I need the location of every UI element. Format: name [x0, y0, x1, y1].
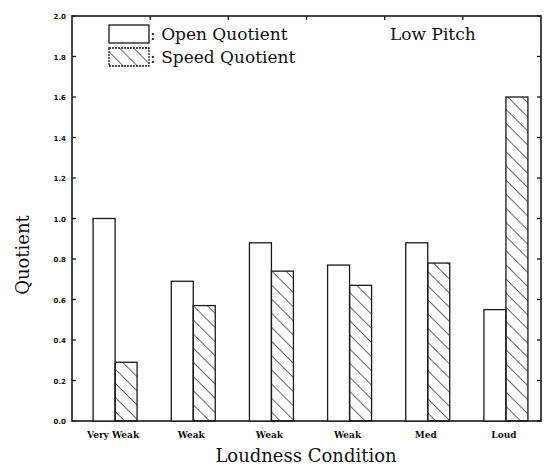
bar-open-quotient [171, 281, 193, 421]
legend-swatch-speed [109, 48, 149, 66]
legend: : Open Quotient : Speed Quotient [109, 24, 295, 67]
bar-open-quotient [328, 265, 350, 421]
x-axis-title: Loudness Condition [215, 445, 397, 466]
bar-speed-quotient [506, 97, 528, 421]
x-axis-labels: Very WeakWeakWeakWeakMedLoud [86, 430, 517, 440]
y-tick-label: 2.0 [54, 13, 67, 21]
x-tick-label: Weak [333, 430, 362, 440]
bar-speed-quotient [350, 285, 372, 421]
x-tick-label: Weak [177, 430, 206, 440]
x-tick-label: Very Weak [86, 430, 140, 440]
annotation-low-pitch: Low Pitch [390, 24, 476, 44]
bar-chart: 0.00.20.40.60.81.01.21.41.61.82.0 Very W… [0, 0, 555, 476]
y-axis-title-wrap: Quotient [2, 215, 42, 295]
y-tick-label: 1.0 [54, 216, 67, 224]
y-tick-label: 0.2 [54, 378, 67, 386]
bar-open-quotient [249, 243, 271, 421]
y-tick-label: 1.8 [54, 54, 67, 62]
plot-border [72, 16, 541, 421]
bar-speed-quotient [428, 263, 450, 421]
y-tick-label: 1.4 [54, 135, 67, 143]
x-tick-label: Med [415, 430, 438, 440]
bar-speed-quotient [193, 306, 215, 421]
y-tick-label: 0.4 [54, 337, 67, 345]
plot-frame [72, 16, 541, 421]
legend-label-speed: : Speed Quotient [150, 47, 295, 67]
y-tick-label: 0.6 [54, 297, 67, 305]
y-tick-label: 1.2 [54, 175, 67, 183]
y-tick-label: 0.0 [54, 418, 67, 426]
bar-speed-quotient [271, 271, 293, 421]
bars [93, 97, 528, 421]
y-tick-label: 0.8 [54, 256, 67, 264]
legend-label-open: : Open Quotient [150, 24, 288, 44]
y-axis-title: Quotient [12, 215, 33, 295]
bar-open-quotient [93, 219, 115, 422]
y-tick-label: 1.6 [54, 94, 67, 102]
x-tick-label: Weak [255, 430, 284, 440]
bar-open-quotient [484, 310, 506, 421]
legend-swatch-open [109, 25, 149, 43]
bar-open-quotient [406, 243, 428, 421]
x-tick-label: Loud [491, 430, 517, 440]
bar-speed-quotient [115, 362, 137, 421]
